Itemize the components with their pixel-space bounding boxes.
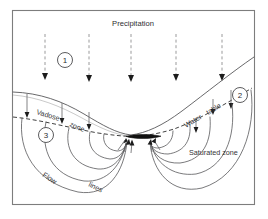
precipitation-label: Precipitation [112, 19, 154, 28]
figure-root: 1 2 3 Precipitation Vadose zone Water ta… [0, 0, 268, 219]
callout-3: 3 [39, 128, 54, 143]
groundwater-flow-diagram: 1 2 3 Precipitation Vadose zone Water ta… [0, 0, 268, 219]
callout-3-label: 3 [44, 131, 49, 140]
callout-1: 1 [58, 53, 73, 68]
callout-2: 2 [233, 88, 248, 103]
callout-1-label: 1 [63, 56, 68, 65]
callout-2-label: 2 [238, 91, 243, 100]
saturated-zone-label: Saturated zone [189, 148, 238, 157]
